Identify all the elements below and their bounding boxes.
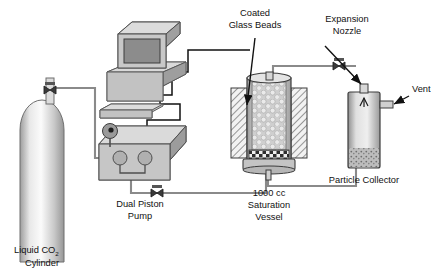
piston-right bbox=[138, 151, 152, 165]
label-cylinder-line2: Cylinder bbox=[25, 258, 59, 268]
particle-collector bbox=[348, 84, 393, 168]
label-particle-collector: Particle Collector bbox=[329, 175, 399, 185]
label-expansion-nozzle-line1: Expansion bbox=[325, 14, 368, 24]
label-vessel-line2: Saturation bbox=[248, 200, 290, 210]
vessel-distributor bbox=[249, 150, 289, 159]
keyboard bbox=[100, 104, 163, 118]
monitor bbox=[118, 22, 180, 68]
vent-port bbox=[380, 101, 393, 108]
label-pump-line1: Dual Piston bbox=[116, 199, 164, 209]
pump-outlet-valve bbox=[151, 185, 163, 197]
dual-piston-pump bbox=[99, 124, 186, 181]
label-coated-glass-beads-line1: Coated bbox=[240, 8, 270, 18]
vessel-jacket-left bbox=[231, 88, 247, 158]
label-vent: Vent bbox=[412, 84, 431, 94]
leader-vent bbox=[394, 96, 409, 104]
computer-workstation bbox=[107, 22, 186, 101]
diagram-canvas: Coated Glass Beads Expansion Nozzle Vent… bbox=[0, 0, 431, 275]
label-pump-line2: Pump bbox=[128, 211, 152, 221]
expansion-nozzle bbox=[360, 84, 368, 93]
process-piping bbox=[50, 66, 356, 193]
label-vessel-line3: Vessel bbox=[255, 212, 282, 222]
collected-particles bbox=[349, 148, 379, 167]
saturation-vessel bbox=[231, 72, 307, 180]
label-expansion-nozzle-line2: Nozzle bbox=[333, 26, 361, 36]
vessel-jacket-right bbox=[291, 88, 307, 158]
piston-left bbox=[113, 151, 127, 165]
liquid-co2-cylinder bbox=[20, 78, 64, 262]
label-coated-glass-beads-line2: Glass Beads bbox=[229, 20, 282, 30]
label-vessel-line1: 1000 cc bbox=[253, 188, 286, 198]
coated-glass-beads-bed bbox=[252, 82, 286, 150]
